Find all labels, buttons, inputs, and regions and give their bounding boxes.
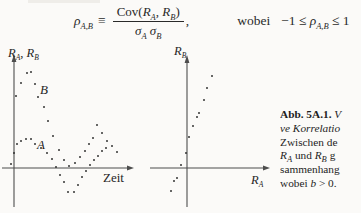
series-a-label: A <box>36 137 45 152</box>
rho-lhs: ρA,B <box>74 13 93 29</box>
rho-range: −1 ≤ ρA,B ≤ 1 <box>281 13 349 29</box>
wobei-text: wobei <box>237 13 270 29</box>
left-x-axis-label: Zeit <box>103 170 124 185</box>
right-plot-dots <box>170 75 213 192</box>
caption-line: wobei b > 0. <box>280 177 361 191</box>
fraction-denominator: σA σB <box>113 22 184 39</box>
fraction-numerator: Cov(RA, RB) <box>113 4 184 22</box>
figure-caption: Abb. 5A.1. V ve Korrelatio Zwischen de R… <box>280 108 361 208</box>
caption-line: RA und RB g <box>280 149 361 163</box>
right-x-axis-label: RA <box>250 173 264 189</box>
fraction: Cov(RA, RB) σA σB <box>113 4 184 39</box>
left-y-axis-label: RA, RB <box>7 46 39 62</box>
returns-vs-time-plot: RA, RB B A Zeit <box>0 38 145 213</box>
right-x-axis-arrow-icon <box>263 166 270 171</box>
left-plot-dots <box>10 71 118 193</box>
right-y-axis-label: RB <box>173 44 187 60</box>
textbook-page-excerpt: ρA,B ≡ Cov(RA, RB) σA σB , wobei −1 ≤ ρA… <box>0 0 361 213</box>
series-b-label: B <box>40 82 48 97</box>
equiv-sign: ≡ <box>98 13 106 29</box>
rb-vs-ra-plot: RB RA <box>143 38 283 213</box>
correlation-formula: ρA,B ≡ Cov(RA, RB) σA σB , wobei −1 ≤ ρA… <box>74 3 350 39</box>
caption-line: sammenhang <box>280 163 361 177</box>
caption-line: Abb. 5A.1. V <box>280 108 361 122</box>
caption-line: ve Korrelatio <box>280 122 361 136</box>
left-x-axis-arrow-icon <box>127 166 134 171</box>
formula-comma: , <box>186 13 189 29</box>
caption-line: Zwischen de <box>280 136 361 150</box>
